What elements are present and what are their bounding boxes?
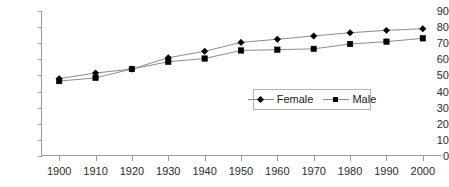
data-point-square bbox=[202, 56, 207, 61]
data-point-diamond bbox=[201, 48, 207, 54]
data-point-diamond bbox=[274, 36, 280, 42]
legend-label-female: Female bbox=[277, 94, 314, 105]
line-chart: 0102030405060708090 19001910192019301940… bbox=[0, 0, 449, 187]
data-point-square bbox=[347, 41, 352, 46]
data-point-square bbox=[93, 75, 98, 80]
legend-entry-female: Female bbox=[248, 94, 314, 105]
data-point-diamond bbox=[383, 27, 389, 33]
data-point-square bbox=[384, 39, 389, 44]
data-point-diamond bbox=[420, 26, 426, 32]
legend-label-male: Male bbox=[352, 94, 376, 105]
series-female bbox=[56, 26, 426, 82]
series-line-female bbox=[59, 29, 423, 79]
data-point-square bbox=[420, 36, 425, 41]
data-series-layer bbox=[0, 0, 449, 187]
data-point-square bbox=[129, 66, 134, 71]
data-point-square bbox=[275, 47, 280, 52]
data-point-diamond bbox=[347, 30, 353, 36]
data-point-square bbox=[311, 46, 316, 51]
legend-square-marker-icon bbox=[323, 95, 349, 105]
data-point-square bbox=[56, 78, 61, 83]
data-point-square bbox=[166, 59, 171, 64]
legend-entry-male: Male bbox=[323, 94, 376, 105]
chart-legend: Female Male bbox=[253, 89, 371, 110]
data-point-diamond bbox=[238, 39, 244, 45]
legend-diamond-marker-icon bbox=[248, 95, 274, 105]
data-point-square bbox=[238, 48, 243, 53]
data-point-diamond bbox=[311, 33, 317, 39]
